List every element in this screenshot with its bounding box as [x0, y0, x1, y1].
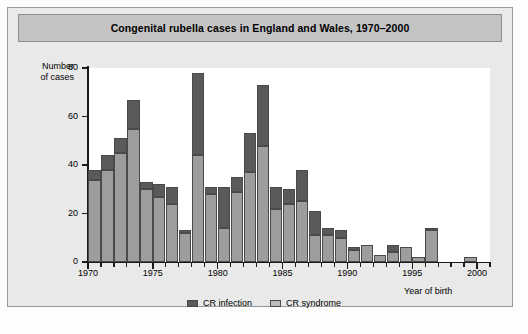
legend-item-cr-infection: CR infection	[187, 298, 252, 308]
bar-1991	[361, 245, 373, 262]
x-tick-label: 1980	[208, 268, 228, 278]
y-tick-mark	[82, 164, 87, 165]
bar-segment-cr-infection	[114, 138, 126, 153]
x-axis-title: Year of birth	[404, 286, 452, 296]
x-tick-mark	[463, 262, 464, 267]
bar-segment-cr-syndrome	[101, 170, 113, 262]
bar-segment-cr-syndrome	[270, 209, 282, 262]
bar-segment-cr-infection	[192, 73, 204, 155]
y-axis-title-line2: of cases	[22, 72, 74, 83]
bar-segment-cr-infection	[140, 182, 152, 189]
x-tick-mark	[100, 262, 101, 267]
x-tick-mark	[295, 262, 296, 267]
bar-segment-cr-syndrome	[166, 204, 178, 262]
bar-1993	[387, 245, 399, 262]
bar-segment-cr-infection	[309, 211, 321, 235]
x-tick-label: 2000	[467, 268, 487, 278]
bar-segment-cr-syndrome	[361, 245, 373, 262]
x-tick-mark	[360, 262, 361, 267]
bar-segment-cr-infection	[387, 245, 399, 252]
bar-segment-cr-syndrome	[153, 197, 165, 262]
bar-1977	[179, 230, 191, 262]
dark-gray-swatch-icon	[187, 300, 198, 307]
bar-segment-cr-infection	[205, 187, 217, 194]
bar-segment-cr-syndrome	[192, 155, 204, 262]
bar-segment-cr-syndrome	[140, 189, 152, 262]
bar-1980	[218, 187, 230, 262]
bar-segment-cr-infection	[101, 155, 113, 170]
bar-segment-cr-infection	[218, 187, 230, 228]
bar-segment-cr-infection	[283, 189, 295, 204]
bar-1983	[257, 85, 269, 262]
bar-1975	[153, 184, 165, 262]
x-tick-mark	[230, 262, 231, 267]
x-tick-mark	[191, 262, 192, 267]
bar-1996	[425, 228, 437, 262]
bar-segment-cr-infection	[335, 230, 347, 237]
bar-segment-cr-syndrome	[348, 250, 360, 262]
bar-segment-cr-syndrome	[179, 233, 191, 262]
legend-label-cr-infection: CR infection	[203, 298, 252, 308]
x-tick-label: 1970	[78, 268, 98, 278]
bar-segment-cr-infection	[127, 100, 139, 129]
bar-1979	[205, 187, 217, 262]
chart-title-band: Congenital rubella cases in England and …	[18, 14, 502, 42]
bar-1972	[114, 138, 126, 262]
x-tick-mark	[256, 262, 257, 267]
bar-segment-cr-infection	[270, 187, 282, 209]
page-title: Congenital rubella cases in England and …	[111, 22, 410, 34]
x-tick-mark	[386, 262, 387, 267]
bar-1978	[192, 73, 204, 262]
bar-segment-cr-syndrome	[374, 255, 386, 262]
bar-1982	[244, 133, 256, 262]
y-tick-mark	[82, 261, 87, 262]
bar-segment-cr-syndrome	[283, 204, 295, 262]
x-tick-label: 1975	[143, 268, 163, 278]
bar-segment-cr-infection	[296, 170, 308, 202]
bar-segment-cr-syndrome	[88, 180, 100, 262]
bar-segment-cr-syndrome	[412, 257, 424, 262]
bar-segment-cr-syndrome	[425, 230, 437, 262]
x-tick-mark	[334, 262, 335, 267]
bar-1986	[296, 170, 308, 262]
bar-segment-cr-infection	[322, 228, 334, 235]
x-tick-mark	[165, 262, 166, 267]
x-tick-mark	[126, 262, 127, 267]
bar-segment-cr-syndrome	[218, 228, 230, 262]
bar-1995	[412, 257, 424, 262]
x-tick-label: 1990	[337, 268, 357, 278]
light-gray-swatch-icon	[270, 300, 281, 307]
bar-segment-cr-infection	[257, 85, 269, 146]
bar-segment-cr-syndrome	[296, 201, 308, 262]
x-tick-mark	[204, 262, 205, 267]
bar-1974	[140, 182, 152, 262]
bar-segment-cr-syndrome	[387, 252, 399, 262]
bar-segment-cr-syndrome	[114, 153, 126, 262]
y-tick-label: 40	[14, 159, 78, 169]
bar-1984	[270, 187, 282, 262]
x-tick-mark	[373, 262, 374, 267]
chart-figure: Congenital rubella cases in England and …	[0, 0, 528, 334]
bar-1989	[335, 230, 347, 262]
y-tick-mark	[82, 213, 87, 214]
y-tick-label: 20	[14, 208, 78, 218]
bar-1992	[374, 255, 386, 262]
bar-segment-cr-infection	[153, 184, 165, 196]
bar-segment-cr-syndrome	[257, 146, 269, 262]
bar-segment-cr-infection	[244, 133, 256, 172]
legend-item-cr-syndrome: CR syndrome	[270, 298, 341, 308]
y-tick-mark	[82, 116, 87, 117]
bar-segment-cr-infection	[88, 170, 100, 180]
x-tick-label: 1985	[273, 268, 293, 278]
x-tick-mark	[308, 262, 309, 267]
bar-segment-cr-infection	[166, 187, 178, 204]
x-tick-mark	[489, 262, 490, 267]
bar-segment-cr-syndrome	[309, 235, 321, 262]
bar-segment-cr-syndrome	[127, 129, 139, 262]
x-tick-mark	[113, 262, 114, 267]
chart-legend: CR infection CR syndrome	[0, 298, 528, 308]
bar-segment-cr-syndrome	[205, 194, 217, 262]
bar-1994	[400, 247, 412, 262]
bar-1985	[283, 189, 295, 262]
bar-1981	[231, 177, 243, 262]
